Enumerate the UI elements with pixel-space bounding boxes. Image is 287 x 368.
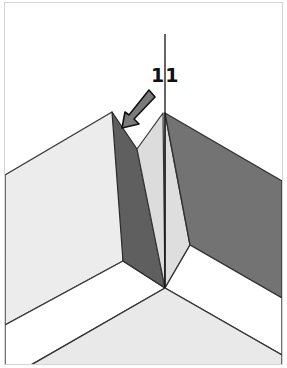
fold-arrow-icon [122,90,155,128]
step-number-label: 11 [151,66,179,85]
diagram-frame: 11 [4,2,283,365]
fold-diagram-svg [5,3,282,364]
